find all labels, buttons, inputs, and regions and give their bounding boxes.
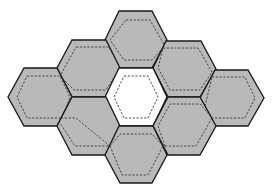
hexagon-tiling-canvas <box>0 0 277 192</box>
hex-tile-bottom <box>105 126 167 183</box>
hexagon-diagram <box>0 0 277 192</box>
hex-outline <box>105 126 167 183</box>
